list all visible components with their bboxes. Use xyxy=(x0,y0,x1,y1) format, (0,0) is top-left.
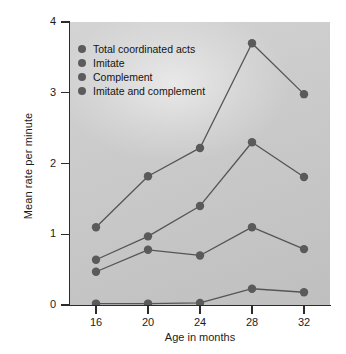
legend-item: Total coordinated acts xyxy=(78,42,205,56)
legend-marker-icon xyxy=(78,45,86,53)
x-tick-mark xyxy=(147,306,148,314)
legend-item: Imitate and complement xyxy=(78,84,205,98)
y-tick-label: 2 xyxy=(16,158,56,169)
data-point-marker xyxy=(196,202,204,210)
series-group xyxy=(92,223,308,276)
y-tick-label: 0 xyxy=(16,299,56,310)
data-point-marker xyxy=(196,144,204,152)
data-point-marker xyxy=(144,246,152,254)
x-tick-mark xyxy=(303,306,304,314)
legend-marker-icon xyxy=(78,87,86,95)
y-tick-label: 3 xyxy=(16,87,56,98)
data-point-marker xyxy=(300,173,308,181)
line-chart: Mean rate per minute 01234 1620242832 To… xyxy=(0,0,346,354)
data-point-marker xyxy=(248,223,256,231)
data-point-marker xyxy=(300,245,308,253)
x-tick-label: 16 xyxy=(76,317,116,328)
y-tick-mark xyxy=(61,21,70,22)
series-line xyxy=(96,142,304,259)
series-group xyxy=(92,285,308,305)
data-point-marker xyxy=(248,285,256,293)
data-point-marker xyxy=(196,251,204,259)
x-tick-label: 32 xyxy=(284,317,324,328)
data-point-marker xyxy=(248,138,256,146)
legend-item-label: Complement xyxy=(93,72,153,83)
x-tick-mark xyxy=(251,306,252,314)
y-tick-mark xyxy=(61,304,70,305)
data-point-marker xyxy=(92,268,100,276)
y-tick-label: 1 xyxy=(16,228,56,239)
x-tick-mark xyxy=(95,306,96,314)
y-tick-label: 4 xyxy=(16,16,56,27)
x-axis-title: Age in months xyxy=(70,331,330,343)
data-point-marker xyxy=(144,232,152,240)
data-point-marker xyxy=(300,90,308,98)
data-point-marker xyxy=(92,223,100,231)
data-point-marker xyxy=(92,256,100,264)
series-line xyxy=(96,227,304,272)
x-tick-label: 28 xyxy=(232,317,272,328)
legend-marker-icon xyxy=(78,73,86,81)
data-point-marker xyxy=(300,288,308,296)
legend-item-label: Imitate and complement xyxy=(93,86,205,97)
legend-marker-icon xyxy=(78,59,86,67)
data-point-marker xyxy=(248,39,256,47)
legend-item: Complement xyxy=(78,70,205,84)
legend-item: Imitate xyxy=(78,56,205,70)
legend-item-label: Imitate xyxy=(93,58,125,69)
legend-item-label: Total coordinated acts xyxy=(93,44,195,55)
y-tick-mark xyxy=(61,92,70,93)
y-tick-mark xyxy=(61,234,70,235)
x-tick-mark xyxy=(199,306,200,314)
y-tick-mark xyxy=(61,163,70,164)
data-point-marker xyxy=(144,172,152,180)
x-tick-label: 24 xyxy=(180,317,220,328)
x-tick-label: 20 xyxy=(128,317,168,328)
series-group xyxy=(92,138,308,264)
chart-legend: Total coordinated acts Imitate Complemen… xyxy=(78,42,205,98)
